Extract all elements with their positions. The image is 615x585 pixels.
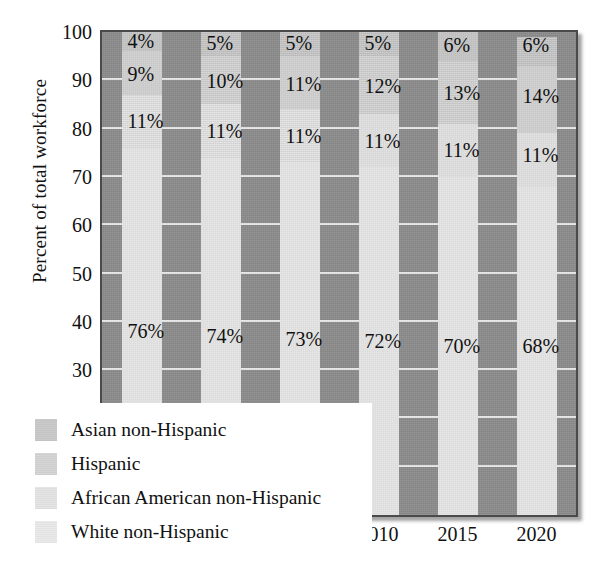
y-axis-tick-80: 80 xyxy=(72,119,92,139)
legend-label: African American non-Hispanic xyxy=(71,487,321,509)
value-label-2015-hispanic: 13% xyxy=(444,83,481,103)
y-axis-tick-100: 100 xyxy=(62,22,92,42)
value-label-2015-african-american-non-hispanic: 11% xyxy=(444,140,480,160)
value-label-1995-asian-non-hispanic: 4% xyxy=(128,31,155,51)
y-axis-tick-30: 30 xyxy=(72,360,92,380)
gridline-40 xyxy=(102,320,576,322)
value-label-2000-african-american-non-hispanic: 11% xyxy=(207,121,243,141)
legend-swatch-icon xyxy=(35,419,57,441)
value-label-1995-african-american-non-hispanic: 11% xyxy=(128,111,164,131)
value-label-2000-hispanic: 10% xyxy=(207,71,244,91)
gridline-60 xyxy=(102,223,576,225)
value-label-2005-white-non-hispanic: 73% xyxy=(286,329,323,349)
value-label-2005-asian-non-hispanic: 5% xyxy=(286,33,313,53)
legend-swatch-icon xyxy=(35,487,57,509)
value-label-2005-african-american-non-hispanic: 11% xyxy=(286,126,322,146)
legend-item-hispanic[interactable]: Hispanic xyxy=(35,447,364,481)
value-label-2015-white-non-hispanic: 70% xyxy=(444,336,481,356)
gridline-50 xyxy=(102,272,576,274)
value-label-1995-white-non-hispanic: 76% xyxy=(128,321,165,341)
value-label-2000-white-non-hispanic: 74% xyxy=(207,326,244,346)
y-axis-tick-50: 50 xyxy=(72,264,92,284)
gridline-70 xyxy=(102,175,576,177)
gridline-30 xyxy=(102,368,576,370)
bar-2015[interactable] xyxy=(438,32,478,515)
value-label-2010-white-non-hispanic: 72% xyxy=(365,331,402,351)
value-label-2010-hispanic: 12% xyxy=(365,76,402,96)
value-label-2020-asian-non-hispanic: 6% xyxy=(523,35,550,55)
legend-item-asian-non-hispanic[interactable]: Asian non-Hispanic xyxy=(35,413,364,447)
legend-label: Asian non-Hispanic xyxy=(71,419,226,441)
value-label-2020-african-american-non-hispanic: 11% xyxy=(523,145,559,165)
x-axis-tick-2020: 2020 xyxy=(517,523,557,546)
y-axis-tick-40: 40 xyxy=(72,312,92,332)
x-axis-tick-2015: 2015 xyxy=(438,523,478,546)
value-label-1995-hispanic: 9% xyxy=(128,64,155,84)
gridline-90 xyxy=(102,78,576,80)
y-axis-tick-90: 90 xyxy=(72,70,92,90)
legend-item-african-american-non-hispanic[interactable]: African American non-Hispanic xyxy=(35,481,364,515)
chart-legend: Asian non-HispanicHispanicAfrican Americ… xyxy=(25,403,372,559)
gridline-100 xyxy=(102,30,576,32)
value-label-2000-asian-non-hispanic: 5% xyxy=(207,33,234,53)
legend-item-white-non-hispanic[interactable]: White non-Hispanic xyxy=(35,515,364,549)
value-label-2020-hispanic: 14% xyxy=(523,86,560,106)
legend-swatch-icon xyxy=(35,453,57,475)
value-label-2020-white-non-hispanic: 68% xyxy=(523,336,560,356)
value-label-2015-asian-non-hispanic: 6% xyxy=(444,35,471,55)
y-axis-tick-70: 70 xyxy=(72,167,92,187)
bar-2020[interactable] xyxy=(517,37,557,515)
value-label-2010-asian-non-hispanic: 5% xyxy=(365,33,392,53)
legend-label: Hispanic xyxy=(71,453,140,475)
stacked-bar-chart: Percent of total workforce 1009080706050… xyxy=(0,0,615,585)
value-label-2005-hispanic: 11% xyxy=(286,74,322,94)
y-axis-tick-60: 60 xyxy=(72,215,92,235)
value-label-2010-african-american-non-hispanic: 11% xyxy=(365,131,401,151)
gridline-80 xyxy=(102,127,576,129)
legend-swatch-icon xyxy=(35,521,57,543)
legend-label: White non-Hispanic xyxy=(71,521,229,543)
